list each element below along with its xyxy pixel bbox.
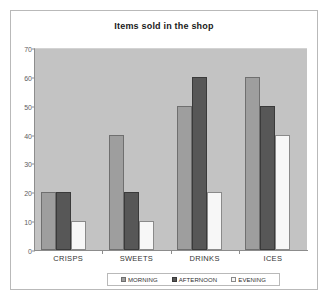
x-axis-category-label: CRISPS xyxy=(53,254,83,263)
chart-legend: MORNINGAFTERNOONEVENING xyxy=(107,273,280,286)
bar xyxy=(109,135,124,250)
y-axis-tick-label: 70 xyxy=(24,46,32,53)
legend-label: EVENING xyxy=(238,277,266,283)
y-axis-tick-label: 60 xyxy=(24,74,32,81)
x-axis-tick-mark xyxy=(102,250,103,254)
legend-item: MORNING xyxy=(121,277,158,283)
y-axis-tick-label: 50 xyxy=(24,103,32,110)
legend-swatch-icon xyxy=(172,277,177,282)
y-axis-tick-label: 40 xyxy=(24,132,32,139)
bar xyxy=(177,106,192,250)
y-axis-tick-mark xyxy=(32,222,35,223)
x-axis-tick-mark xyxy=(239,250,240,254)
y-axis-tick-mark xyxy=(32,106,35,107)
x-axis-tick-mark xyxy=(171,250,172,254)
bar xyxy=(260,106,275,250)
bar-group xyxy=(41,49,86,250)
x-axis-category-label: DRINKS xyxy=(190,254,220,263)
bar-group xyxy=(245,49,290,250)
legend-swatch-icon xyxy=(231,277,236,282)
bar xyxy=(139,221,154,250)
chart-container: Items sold in the shop 010203040506070 M… xyxy=(10,10,318,290)
legend-swatch-icon xyxy=(121,277,126,282)
bar-group xyxy=(109,49,154,250)
y-axis-tick-mark xyxy=(32,193,35,194)
bar xyxy=(56,192,71,250)
y-axis-tick-mark xyxy=(32,164,35,165)
plot-area: 010203040506070 xyxy=(34,48,307,250)
y-axis-tick-label: 30 xyxy=(24,161,32,168)
y-axis-tick-mark xyxy=(32,135,35,136)
y-axis-tick-label: 20 xyxy=(24,190,32,197)
bar xyxy=(71,221,86,250)
legend-label: AFTERNOON xyxy=(179,277,218,283)
chart-title: Items sold in the shop xyxy=(11,21,317,31)
bar xyxy=(207,192,222,250)
bar xyxy=(124,192,139,250)
legend-label: MORNING xyxy=(128,277,158,283)
legend-item: EVENING xyxy=(231,277,266,283)
bar xyxy=(41,192,56,250)
legend-item: AFTERNOON xyxy=(172,277,218,283)
y-axis-tick-label: 10 xyxy=(24,219,32,226)
y-axis-tick-mark xyxy=(32,77,35,78)
y-axis-tick-mark xyxy=(32,49,35,50)
bar xyxy=(192,77,207,250)
bar xyxy=(245,77,260,250)
x-axis-category-label: SWEETS xyxy=(120,254,153,263)
x-axis-category-label: ICES xyxy=(264,254,283,263)
bar xyxy=(275,135,290,250)
bar-group xyxy=(177,49,222,250)
